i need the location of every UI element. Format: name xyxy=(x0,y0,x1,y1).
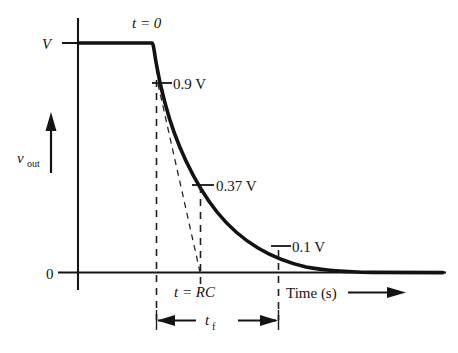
figure-canvas: V 0 v out t = 0 0.9 V 0.37 V 0.1 V t = R xyxy=(0,0,458,353)
y-axis-top-value-label: V xyxy=(42,36,53,52)
y-axis-zero-label: 0 xyxy=(46,266,54,282)
annotation-level-37-label: 0.37 V xyxy=(216,178,257,194)
y-axis-title-subscript: out xyxy=(27,158,40,169)
annotation-time-constant-label: t = RC xyxy=(174,284,216,300)
x-axis-title-label: Time (s) xyxy=(286,285,337,302)
annotation-step-time: t = 0 xyxy=(132,15,162,31)
annotation-step-time-label: t = 0 xyxy=(132,15,162,31)
x-axis-direction-arrow-icon xyxy=(348,287,406,298)
annotation-level-90-label: 0.9 V xyxy=(173,76,206,92)
fall-time-arrow-right-icon xyxy=(260,315,278,326)
fall-time-dimension: t f xyxy=(157,310,279,332)
rc-decay-figure: V 0 v out t = 0 0.9 V 0.37 V 0.1 V t = R xyxy=(0,0,458,353)
annotation-level-10-label: 0.1 V xyxy=(292,239,325,255)
fall-time-arrow-left-icon xyxy=(157,315,175,326)
fall-time-subscript: f xyxy=(212,321,216,332)
fall-time-label: t xyxy=(205,312,210,328)
vout-decay-curve xyxy=(79,43,443,273)
y-axis-title-label: v xyxy=(17,150,24,166)
y-axis-direction-arrow-icon xyxy=(46,112,57,173)
